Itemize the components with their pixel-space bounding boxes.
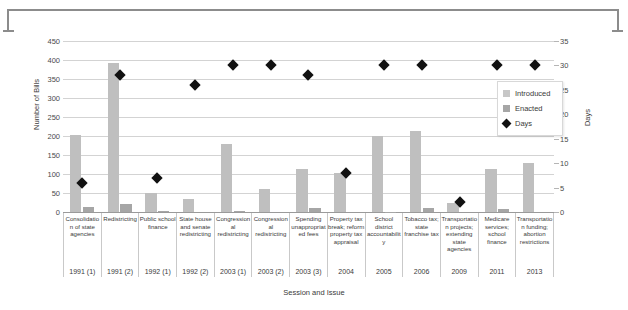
category-session-label: 2009: [451, 268, 467, 277]
bar-group[interactable]: [403, 41, 441, 212]
swatch-icon: [503, 90, 510, 97]
plot-area: [63, 41, 554, 212]
category-issue-label: School district accountability: [366, 213, 403, 245]
category-issue-label: Transportation projects; extending state…: [441, 213, 478, 253]
bar-introduced[interactable]: [183, 199, 194, 212]
diamond-icon: [502, 119, 512, 129]
bar-introduced[interactable]: [410, 131, 421, 212]
bar-introduced[interactable]: [70, 135, 81, 212]
bar-group[interactable]: [214, 41, 252, 212]
category-cell: Congressional redistricting2003 (1): [214, 213, 252, 277]
y-tick-mark-right: [554, 212, 559, 213]
bar-group[interactable]: [176, 41, 214, 212]
legend-label: Introduced: [515, 89, 550, 98]
category-session-label: 2004: [338, 268, 354, 277]
bar-group[interactable]: [63, 41, 101, 212]
days-marker[interactable]: [227, 60, 238, 71]
bar-introduced[interactable]: [259, 189, 270, 212]
category-session-label: 2013: [527, 268, 543, 277]
bar-group[interactable]: [441, 41, 479, 212]
y-tick-label-left: 0: [56, 208, 60, 217]
category-cell: Congressional redistricting2003 (2): [251, 213, 289, 277]
days-marker[interactable]: [265, 60, 276, 71]
category-cell: Redistricting1991 (2): [101, 213, 139, 277]
y-tick-mark-right: [554, 163, 559, 164]
y-tick-label-right: 10: [560, 159, 568, 168]
bar-introduced[interactable]: [523, 163, 534, 212]
category-issue-label: Property tax break; reform property tax …: [328, 213, 365, 245]
y-tick-label-right: 0: [560, 208, 564, 217]
category-issue-label: Tobacco tax; state franchise tax: [403, 213, 440, 238]
category-issue-label: Medicare services; school finance: [479, 213, 516, 245]
bar-enacted[interactable]: [120, 204, 131, 212]
category-cell: Transportation projects; extending state…: [440, 213, 478, 277]
y-tick-label-left: 150: [47, 151, 60, 160]
legend-label: Days: [515, 119, 532, 128]
y-tick-label-left: 400: [47, 56, 60, 65]
bar-introduced[interactable]: [372, 136, 383, 212]
legend-item-enacted[interactable]: Enacted: [503, 101, 558, 116]
bar-introduced[interactable]: [485, 169, 496, 212]
bar-group[interactable]: [327, 41, 365, 212]
bar-introduced[interactable]: [221, 144, 232, 212]
days-marker[interactable]: [303, 70, 314, 81]
y-axis-right-ticks: 05101520253035: [560, 41, 586, 212]
bar-introduced[interactable]: [334, 173, 345, 212]
y-tick-label-right: 5: [560, 183, 564, 192]
days-marker[interactable]: [152, 172, 163, 183]
bar-enacted[interactable]: [309, 208, 320, 212]
days-marker[interactable]: [529, 60, 540, 71]
bar-introduced[interactable]: [296, 169, 307, 212]
bar-introduced[interactable]: [145, 193, 156, 212]
y-tick-mark-right: [554, 139, 559, 140]
bar-enacted[interactable]: [234, 211, 245, 212]
bar-enacted[interactable]: [83, 207, 94, 212]
category-issue-label: Spending unappropriated fees: [290, 213, 327, 238]
category-session-label: 2011: [489, 268, 504, 277]
y-tick-mark-right: [554, 41, 559, 42]
category-axis-table: Consolidation of state agencies1991 (1)R…: [63, 213, 554, 277]
y-tick-mark-right: [554, 188, 559, 189]
category-issue-label: Congressional redistricting: [252, 213, 289, 238]
chart-legend: IntroducedEnactedDays: [497, 81, 563, 136]
category-issue-label: Transportation funding; abortion restric…: [516, 213, 553, 245]
category-session-label: 2003 (3): [295, 268, 321, 277]
category-cell: Tobacco tax; state franchise tax2006: [402, 213, 440, 277]
y-tick-label-left: 350: [47, 75, 60, 84]
y-tick-label-left: 300: [47, 94, 60, 103]
bar-group[interactable]: [290, 41, 328, 212]
category-issue-label: Redistricting: [102, 213, 139, 223]
category-session-label: 2003 (1): [220, 268, 246, 277]
category-cell: Consolidation of state agencies1991 (1): [63, 213, 101, 277]
bar-enacted[interactable]: [423, 208, 434, 212]
y-tick-label-left: 250: [47, 113, 60, 122]
category-issue-label: Public school finance: [139, 213, 176, 230]
category-session-label: 2005: [376, 268, 392, 277]
y-tick-label-left: 450: [47, 37, 60, 46]
legend-item-introduced[interactable]: Introduced: [503, 86, 558, 101]
bar-group[interactable]: [139, 41, 177, 212]
days-marker[interactable]: [416, 60, 427, 71]
days-marker[interactable]: [378, 60, 389, 71]
days-marker[interactable]: [492, 60, 503, 71]
category-issue-label: Consolidation of state agencies: [64, 213, 101, 238]
bar-group[interactable]: [365, 41, 403, 212]
bar-introduced[interactable]: [108, 63, 119, 212]
category-cell: Spending unappropriated fees2003 (3): [289, 213, 327, 277]
bar-group[interactable]: [101, 41, 139, 212]
legend-item-days[interactable]: Days: [503, 116, 558, 131]
legend-label: Enacted: [515, 104, 543, 113]
y-tick-label-left: 100: [47, 170, 60, 179]
swatch-icon: [503, 105, 510, 112]
category-cell: School district accountability2005: [365, 213, 403, 277]
x-axis-title: Session and Issue: [0, 288, 628, 297]
category-session-label: 2006: [414, 268, 430, 277]
bar-group[interactable]: [252, 41, 290, 212]
bar-enacted[interactable]: [158, 211, 169, 212]
category-cell: Property tax break; reform property tax …: [327, 213, 365, 277]
y-axis-left-ticks: 050100150200250300350400450: [30, 41, 60, 212]
category-cell: Public school finance1992 (1): [138, 213, 176, 277]
days-marker[interactable]: [190, 79, 201, 90]
bar-chart: Number of Bills Days 0501001502002503003…: [0, 0, 628, 310]
bar-enacted[interactable]: [498, 209, 509, 212]
